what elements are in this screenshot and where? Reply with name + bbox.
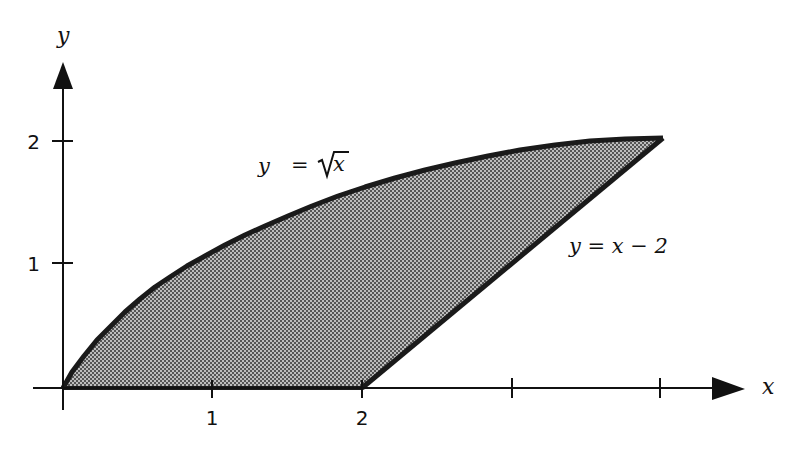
x-axis-arrow-icon bbox=[712, 377, 745, 400]
x-tick-label-1: 1 bbox=[206, 406, 219, 430]
x-axis-label: x bbox=[762, 374, 775, 399]
svg-text:x: x bbox=[333, 152, 345, 176]
sqrt-curve-label: y = x bbox=[257, 152, 349, 178]
y-axis-label: y bbox=[56, 23, 70, 48]
y-axis-arrow-icon bbox=[53, 62, 73, 89]
x-tick-label-2: 2 bbox=[356, 406, 369, 430]
region-diagram: 1 2 1 2 x y y = x y = x − 2 bbox=[0, 0, 797, 459]
y-tick-label-2: 2 bbox=[27, 130, 40, 154]
svg-text:y: y bbox=[257, 154, 271, 178]
shaded-region bbox=[63, 138, 663, 388]
line-label: y = x − 2 bbox=[568, 234, 668, 258]
svg-text:=: = bbox=[291, 153, 309, 177]
y-tick-label-1: 1 bbox=[27, 252, 40, 276]
